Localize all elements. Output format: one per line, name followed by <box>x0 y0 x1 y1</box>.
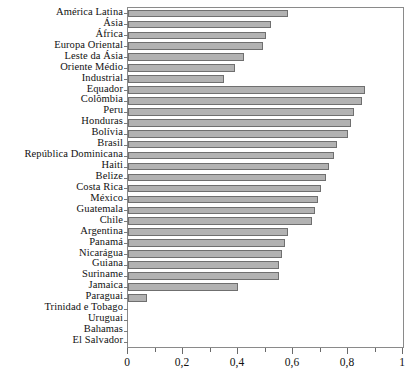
bar <box>128 217 312 225</box>
x-tick-major <box>237 348 238 354</box>
bar <box>128 185 321 193</box>
category-tick <box>124 178 128 179</box>
category-axis-labels: América LatinaÁsiaÁfricaEuropa OrientalL… <box>0 7 123 348</box>
category-tick <box>124 13 128 14</box>
x-tick-major <box>127 348 128 354</box>
category-label: Bahamas <box>0 324 123 335</box>
bar <box>128 32 266 40</box>
bar <box>128 239 285 247</box>
category-tick <box>124 156 128 157</box>
bar <box>128 283 238 291</box>
bar <box>128 174 326 182</box>
category-tick <box>124 167 128 168</box>
category-label: Peru <box>0 105 123 116</box>
bar <box>128 141 337 149</box>
bar <box>128 196 318 204</box>
x-tick-minor <box>155 348 156 352</box>
category-label: África <box>0 29 123 40</box>
category-label: Belize <box>0 171 123 182</box>
bar <box>128 75 224 83</box>
x-tick-label: 1 <box>399 356 405 368</box>
category-label: Guatemala <box>0 204 123 215</box>
bar <box>128 119 351 127</box>
bar <box>128 97 362 105</box>
category-label: México <box>0 193 123 204</box>
category-tick <box>124 232 128 233</box>
bar <box>128 108 354 116</box>
bar <box>128 228 288 236</box>
x-axis-tick-labels: 00,20,40,60,81 <box>0 356 417 376</box>
x-tick-label: 0 <box>124 356 130 368</box>
category-label: Uruguai <box>0 313 123 324</box>
bar <box>128 152 334 160</box>
category-tick <box>124 68 128 69</box>
category-tick <box>124 188 128 189</box>
category-tick <box>124 145 128 146</box>
category-tick <box>124 243 128 244</box>
category-tick <box>124 210 128 211</box>
category-tick <box>124 24 128 25</box>
x-tick-major <box>292 348 293 354</box>
bar <box>128 294 147 302</box>
category-label: América Latina <box>0 7 123 18</box>
x-tick-minor <box>375 348 376 352</box>
category-tick <box>124 46 128 47</box>
category-label: Equador <box>0 84 123 95</box>
bar <box>128 261 279 269</box>
bar <box>128 64 235 72</box>
category-label: Trinidad e Tobago <box>0 302 123 313</box>
category-label: Jamaica <box>0 280 123 291</box>
bar <box>128 53 244 61</box>
category-label: El Salvador <box>0 335 123 346</box>
category-tick <box>124 134 128 135</box>
category-tick <box>124 221 128 222</box>
category-label: Nicarágua <box>0 248 123 259</box>
category-label: Guiana <box>0 258 123 269</box>
category-tick <box>124 342 128 343</box>
bar <box>128 207 315 215</box>
category-tick <box>124 265 128 266</box>
x-tick-minor <box>265 348 266 352</box>
bar <box>128 163 329 171</box>
category-tick <box>124 35 128 36</box>
category-label: Colômbia <box>0 94 123 105</box>
category-tick <box>124 331 128 332</box>
category-label: Oriente Médio <box>0 62 123 73</box>
bar <box>128 250 282 258</box>
category-tick <box>124 199 128 200</box>
bar <box>128 130 348 138</box>
category-tick <box>124 123 128 124</box>
bar <box>128 86 365 94</box>
category-label: Honduras <box>0 116 123 127</box>
category-tick <box>124 90 128 91</box>
category-tick <box>124 320 128 321</box>
category-tick <box>124 276 128 277</box>
bar <box>128 272 279 280</box>
category-label: Paraguai <box>0 291 123 302</box>
x-tick-minor <box>320 348 321 352</box>
category-tick <box>124 101 128 102</box>
category-label: Argentina <box>0 226 123 237</box>
x-tick-label: 0,8 <box>340 356 354 368</box>
category-tick <box>124 79 128 80</box>
bar <box>128 42 263 50</box>
x-axis-ticks <box>127 348 405 355</box>
category-label: Brasil <box>0 138 123 149</box>
category-label: República Dominicana <box>0 149 123 160</box>
category-label: Bolívia <box>0 127 123 138</box>
x-tick-label: 0,4 <box>230 356 244 368</box>
category-label: Suriname <box>0 269 123 280</box>
x-tick-label: 0,6 <box>285 356 299 368</box>
category-label: Europa Oriental <box>0 40 123 51</box>
x-tick-minor <box>210 348 211 352</box>
x-tick-major <box>347 348 348 354</box>
category-label: Chile <box>0 215 123 226</box>
category-label: Costa Rica <box>0 182 123 193</box>
category-tick <box>124 298 128 299</box>
category-label: Leste da Ásia <box>0 51 123 62</box>
category-label: Panamá <box>0 237 123 248</box>
category-tick <box>124 287 128 288</box>
bar <box>128 21 271 29</box>
bar-chart: América LatinaÁsiaÁfricaEuropa OrientalL… <box>0 0 417 388</box>
category-tick <box>124 112 128 113</box>
